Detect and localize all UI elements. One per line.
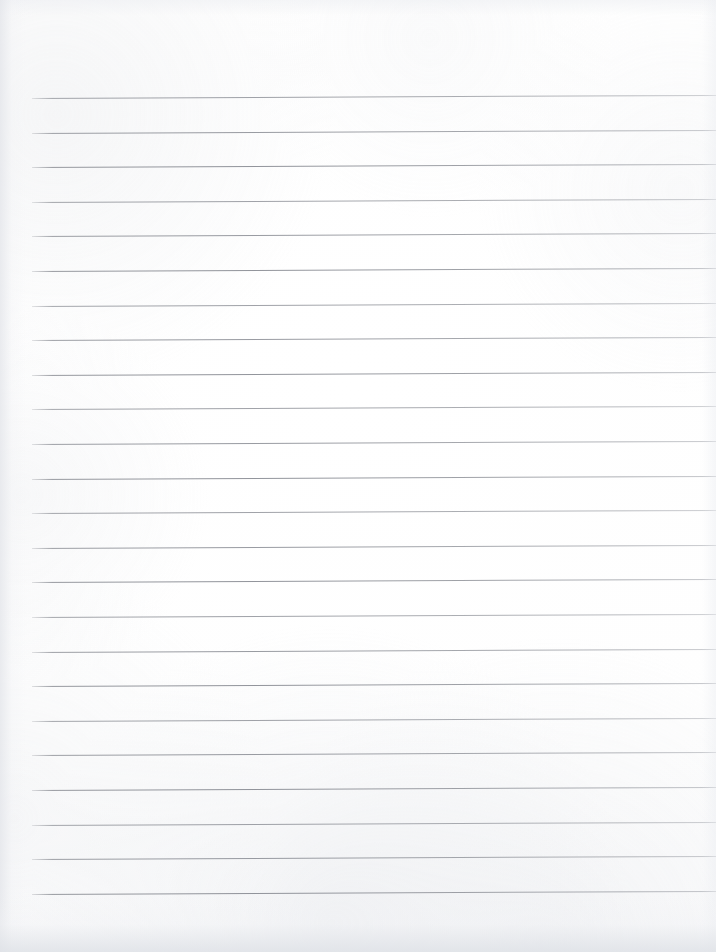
writing-area[interactable] <box>32 88 716 912</box>
notebook-page <box>0 0 716 952</box>
